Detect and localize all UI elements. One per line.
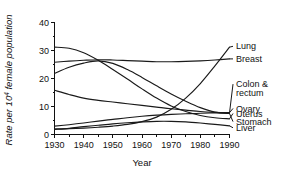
leader-line [230,46,234,47]
x-tick-label: 1980 [190,140,210,150]
series-line-colon-rectum [55,90,230,113]
y-tick-label: 10 [39,102,49,112]
leader-line [230,126,234,128]
x-tick-label: 1960 [132,140,152,150]
axes [55,23,230,135]
x-tick-label: 1990 [219,140,239,150]
y-axis-title-suffix: female population [3,15,14,93]
label-leader-lines [230,46,234,127]
y-tick-label: 0 [44,130,49,140]
x-tick-label: 1940 [74,140,94,150]
x-axis-ticks: 1930194019501960197019801990 [44,135,239,150]
y-tick-label: 30 [39,46,49,56]
series-line-breast [55,59,230,62]
series-line-ovary [55,113,230,126]
y-axis-title: Rate per 104 female population [3,15,14,146]
data-series-group [55,47,230,129]
figure-container: 010203040 1930194019501960197019801990 L… [0,0,295,172]
series-label-lung: Lung [236,41,256,51]
series-label-liver: Liver [236,123,256,133]
series-labels-group: LungBreastColon &rectumOvaryUterusStomac… [236,41,272,132]
y-tick-label: 40 [39,18,49,28]
y-axis-ticks: 010203040 [39,18,55,140]
y-tick-label: 20 [39,74,49,84]
series-label-colon-rectum-line2: rectum [236,88,264,98]
line-chart: 010203040 1930194019501960197019801990 L… [0,0,295,172]
x-tick-label: 1950 [103,140,123,150]
x-tick-label: 1930 [44,140,64,150]
series-line-uterus [55,47,230,119]
x-axis-title: Year [132,157,151,168]
y-axis-title-prefix: Rate per 10 [3,95,14,145]
x-tick-label: 1970 [161,140,181,150]
series-label-breast: Breast [236,54,263,64]
